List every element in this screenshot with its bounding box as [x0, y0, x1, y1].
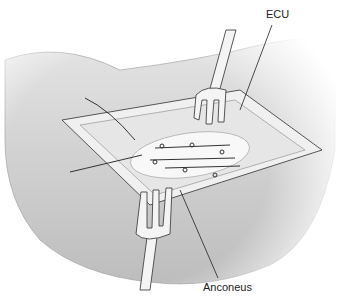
- label-ecu: ECU: [266, 8, 289, 20]
- illustration: [0, 0, 340, 302]
- label-anconeus: Anconeus: [203, 281, 252, 293]
